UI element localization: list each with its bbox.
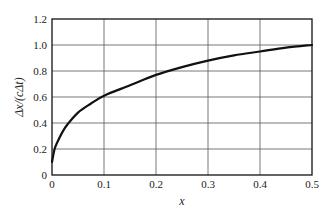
- y-tick-label: 0.4: [33, 117, 47, 129]
- x-axis-label: x: [178, 194, 185, 208]
- y-tick-label: 1.2: [33, 13, 47, 25]
- x-tick-label: 0.2: [149, 178, 163, 190]
- x-tick-label: 0: [49, 178, 55, 190]
- x-tick-label: 0.1: [97, 178, 111, 190]
- x-axis-ticks: 00.10.20.30.40.5: [49, 178, 319, 190]
- data-curve: [52, 45, 312, 162]
- y-tick-label: 0: [42, 169, 48, 181]
- y-tick-label: 0.6: [33, 91, 47, 103]
- y-tick-label: 1.0: [33, 39, 47, 51]
- x-tick-label: 0.5: [305, 178, 319, 190]
- y-tick-label: 0.2: [33, 143, 47, 155]
- x-tick-label: 0.4: [253, 178, 267, 190]
- y-tick-label: 0.8: [33, 65, 47, 77]
- x-tick-label: 0.3: [201, 178, 215, 190]
- grid-lines: [52, 19, 312, 175]
- y-axis-ticks: 00.20.40.60.81.01.2: [33, 13, 47, 181]
- y-axis-label: Δx/(cΔt): [12, 77, 26, 117]
- chart: 00.20.40.60.81.01.2 00.10.20.30.40.5 x Δ…: [0, 0, 330, 212]
